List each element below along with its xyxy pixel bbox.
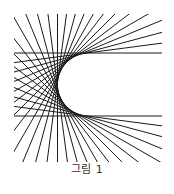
tangent-lines <box>0 0 174 174</box>
figure-caption: 그림 1 <box>0 160 174 176</box>
tangent-line <box>0 0 136 174</box>
tangent-lines-diagram <box>0 0 174 174</box>
tangent-line <box>0 0 136 174</box>
